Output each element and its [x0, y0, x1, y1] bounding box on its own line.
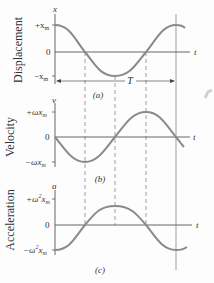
- axis-symbol-x: x: [52, 4, 57, 14]
- t-axis-label: t: [193, 132, 196, 142]
- panel-acceleration: Acceleration a +ω2xm 0 −ω2xm t (c): [3, 181, 199, 275]
- acceleration-curve: [55, 206, 187, 250]
- page-edge-mark: [205, 90, 212, 98]
- tick-plus-omega-xm: +ωxm: [26, 107, 47, 118]
- arrowhead-right-icon: [170, 79, 175, 83]
- axis-symbol-a: a: [52, 181, 57, 191]
- panel-displacement: T Displacement x +xm 0 −xm t (a): [11, 4, 197, 100]
- period-label: T: [127, 75, 134, 86]
- tick-minus-omega-xm: −ωxm: [25, 157, 46, 168]
- tick-minus-xm: −xm: [34, 71, 49, 82]
- tick-zero: 0: [45, 220, 50, 230]
- y-label-acceleration: Acceleration: [3, 189, 17, 250]
- tick-plus-xm: +xm: [35, 20, 50, 31]
- figure-canvas: T Displacement x +xm 0 −xm t (a) Velocit…: [0, 0, 214, 283]
- t-axis-label: t: [194, 47, 197, 57]
- tick-plus-omega2-xm: +ω2xm: [26, 193, 50, 205]
- tick-minus-omega2-xm: −ω2xm: [23, 244, 47, 256]
- y-label-velocity: Velocity: [3, 117, 17, 157]
- caption-c: (c): [95, 265, 105, 275]
- caption-b: (b): [95, 174, 106, 184]
- t-axis-label: t: [196, 220, 199, 230]
- displacement-curve: [55, 25, 185, 76]
- panel-velocity: Velocity v +ωxm 0 −ωxm t (b): [3, 95, 196, 184]
- tick-zero: 0: [45, 132, 50, 142]
- axis-symbol-v: v: [52, 95, 56, 105]
- arrowhead-left-icon: [56, 79, 61, 83]
- y-label-displacement: Displacement: [11, 16, 25, 83]
- caption-a: (a): [93, 90, 104, 100]
- tick-zero: 0: [46, 47, 51, 57]
- shm-graphs-figure: T Displacement x +xm 0 −xm t (a) Velocit…: [0, 0, 214, 283]
